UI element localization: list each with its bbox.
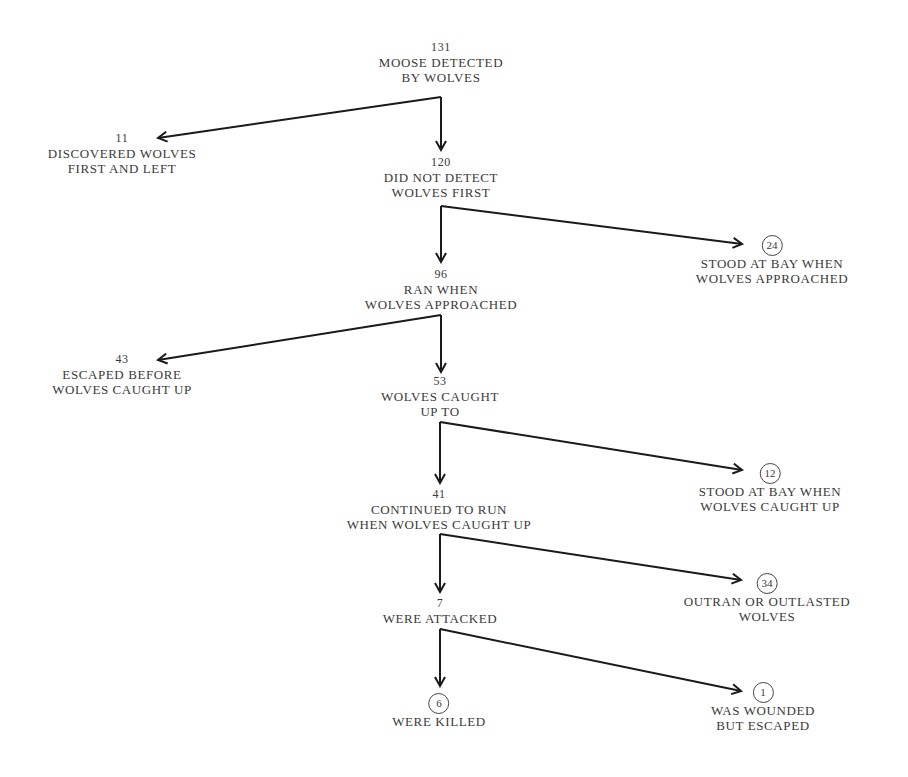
node-stood-at-bay-approached: 24 STOOD AT BAY WHEN WOLVES APPROACHED	[696, 235, 848, 286]
node-label-line: STOOD AT BAY WHEN	[696, 256, 848, 271]
node-count: 131	[379, 40, 503, 55]
node-label-line: WOLVES CAUGHT	[381, 389, 499, 404]
node-label-line: WOLVES FIRST	[384, 185, 498, 200]
terminal-count-circle: 12	[759, 463, 780, 484]
node-outran-or-outlasted: 34 OUTRAN OR OUTLASTED WOLVES	[684, 573, 851, 624]
node-label-line: WAS WOUNDED	[711, 703, 815, 718]
node-label-line: DID NOT DETECT	[384, 170, 498, 185]
terminal-count-circle: 6	[428, 693, 449, 714]
node-count: 11	[48, 131, 197, 146]
node-label-line: STOOD AT BAY WHEN	[699, 484, 842, 499]
node-label-line: WOLVES APPROACHED	[696, 271, 848, 286]
node-label-line: WOLVES APPROACHED	[365, 297, 517, 312]
node-did-not-detect: 120 DID NOT DETECT WOLVES FIRST	[384, 155, 498, 200]
node-count: 7	[383, 596, 498, 611]
node-stood-at-bay-caught-up: 12 STOOD AT BAY WHEN WOLVES CAUGHT UP	[699, 463, 842, 514]
node-ran-when-approached: 96 RAN WHEN WOLVES APPROACHED	[365, 267, 517, 312]
node-label-line: RAN WHEN	[365, 282, 517, 297]
node-continued-to-run: 41 CONTINUED TO RUN WHEN WOLVES CAUGHT U…	[347, 487, 532, 532]
node-discovered-wolves-first: 11 DISCOVERED WOLVES FIRST AND LEFT	[48, 131, 197, 176]
node-label-line: ESCAPED BEFORE	[52, 367, 192, 382]
node-count: 43	[52, 352, 192, 367]
node-wounded-but-escaped: 1 WAS WOUNDED BUT ESCAPED	[711, 682, 815, 733]
node-label-line: WOLVES	[684, 609, 851, 624]
arrow-root-to-left1	[158, 97, 441, 138]
terminal-count-circle: 34	[756, 573, 777, 594]
node-label-line: CONTINUED TO RUN	[347, 502, 532, 517]
terminal-count-circle: 1	[753, 682, 774, 703]
node-label-line: MOOSE DETECTED	[379, 55, 503, 70]
node-label-line: DISCOVERED WOLVES	[48, 146, 197, 161]
node-escaped-before-caught: 43 ESCAPED BEFORE WOLVES CAUGHT UP	[52, 352, 192, 397]
node-were-attacked: 7 WERE ATTACKED	[383, 596, 498, 626]
node-label-line: WERE ATTACKED	[383, 611, 498, 626]
arrow-n53-to-r12	[440, 422, 742, 470]
node-count: 41	[347, 487, 532, 502]
node-count: 53	[381, 374, 499, 389]
node-moose-detected: 131 MOOSE DETECTED BY WOLVES	[379, 40, 503, 85]
node-label-line: BUT ESCAPED	[711, 718, 815, 733]
node-label-line: WHEN WOLVES CAUGHT UP	[347, 517, 532, 532]
node-count: 120	[384, 155, 498, 170]
node-label-line: WOLVES CAUGHT UP	[52, 382, 192, 397]
node-were-killed: 6 WERE KILLED	[392, 693, 486, 729]
node-count: 96	[365, 267, 517, 282]
node-label-line: BY WOLVES	[379, 70, 503, 85]
node-wolves-caught-up: 53 WOLVES CAUGHT UP TO	[381, 374, 499, 419]
arrow-n7-to-r1	[440, 629, 741, 691]
terminal-count-circle: 24	[761, 235, 782, 256]
arrow-n96-to-left43	[158, 315, 441, 360]
node-label-line: OUTRAN OR OUTLASTED	[684, 594, 851, 609]
node-label-line: FIRST AND LEFT	[48, 161, 197, 176]
node-label-line: UP TO	[381, 404, 499, 419]
node-label-line: WOLVES CAUGHT UP	[699, 499, 842, 514]
node-label-line: WERE KILLED	[392, 714, 486, 729]
